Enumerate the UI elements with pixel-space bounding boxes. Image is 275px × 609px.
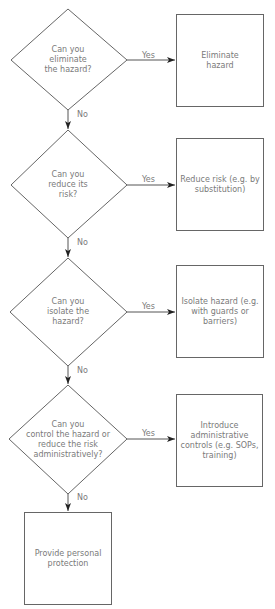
edge-label-yes-3: Yes	[142, 302, 155, 312]
action-text-reduce: Reduce risk (e.g. by substitution)	[176, 138, 264, 231]
action-text-administrative: Introduce administrative controls (e.g. …	[176, 394, 263, 487]
decision-text-eliminate: Can you eliminate the hazard?	[28, 40, 108, 80]
edge-label-no-2: No	[77, 238, 88, 248]
edge-label-yes-1: Yes	[142, 51, 155, 61]
action-text-personal-protection: Provide personal protection	[24, 512, 112, 605]
hazard-control-flowchart: Can you eliminate the hazard? Can you re…	[0, 0, 275, 609]
action-text-eliminate: Eliminate hazard	[176, 14, 264, 107]
decision-text-administrative: Can you control the hazard or reduce the…	[18, 418, 118, 462]
edge-label-no-4: No	[77, 493, 88, 503]
edge-label-yes-4: Yes	[142, 429, 155, 439]
edge-label-no-3: No	[77, 366, 88, 376]
decision-text-reduce: Can you reduce its risk?	[28, 165, 108, 205]
decision-text-isolate: Can you isolate the hazard?	[28, 292, 108, 332]
action-text-isolate: Isolate hazard (e.g. with guards or barr…	[176, 265, 264, 358]
edge-label-no-1: No	[77, 110, 88, 120]
edge-label-yes-2: Yes	[142, 175, 155, 185]
